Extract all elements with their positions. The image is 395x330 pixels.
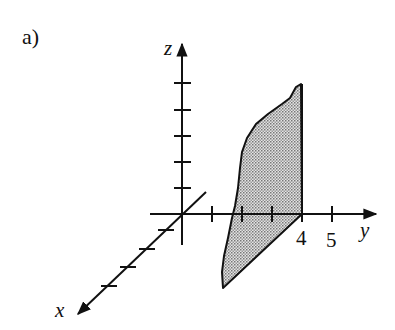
y-axis-label: y xyxy=(360,220,369,241)
y-tick-label-4: 4 xyxy=(296,228,307,249)
z-axis-label: z xyxy=(164,38,172,59)
y-tick-label-5: 5 xyxy=(326,230,337,251)
diagram-canvas xyxy=(0,0,395,330)
panel-label: a) xyxy=(22,26,39,48)
x-axis xyxy=(78,192,206,314)
shaded-region xyxy=(222,84,302,288)
figure: a) z y x 4 5 xyxy=(0,0,395,330)
x-axis-label: x xyxy=(55,300,64,321)
